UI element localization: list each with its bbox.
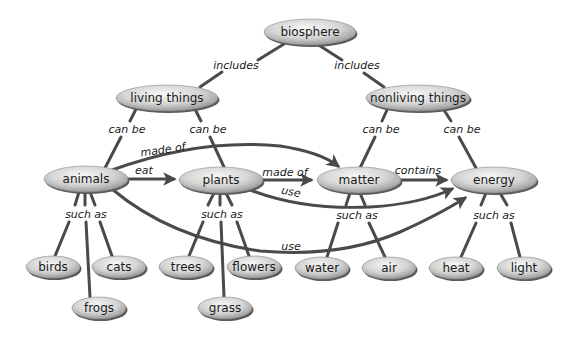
node-living-things: living things	[116, 85, 220, 113]
edge-biosphere-living-lower	[200, 72, 222, 87]
edge-energy-suchas-l	[481, 193, 486, 205]
node-matter: matter	[317, 167, 403, 195]
node-plants: plants	[179, 167, 265, 195]
node-label: cats	[107, 260, 132, 274]
label-includes-left: includes	[213, 59, 259, 72]
label-energy-suchas: such as	[473, 209, 515, 222]
label-matter-suchas: such as	[336, 209, 378, 222]
label-includes-right: includes	[334, 59, 380, 72]
node-label: light	[511, 261, 538, 275]
edge-energy-light	[511, 223, 520, 257]
edge-nonliving-matter-lower	[360, 137, 375, 168]
node-cats: cats	[92, 256, 148, 280]
node-trees: trees	[159, 256, 215, 280]
node-flowers: flowers	[227, 256, 283, 280]
edge-matter-water	[327, 223, 338, 257]
edge-living-animals-upper	[130, 109, 136, 121]
node-label: plants	[203, 173, 240, 187]
label-matter-contains: contains	[395, 164, 442, 177]
edge-living-plants-lower	[210, 137, 224, 167]
edge-matter-suchas-l	[346, 193, 350, 205]
node-label: energy	[473, 173, 515, 187]
edge-plants-suchas-l	[208, 193, 214, 205]
node-label: heat	[442, 261, 469, 275]
node-label: living things	[130, 91, 203, 105]
node-label: grass	[209, 301, 241, 315]
node-energy: energy	[451, 167, 539, 195]
node-label: matter	[339, 173, 380, 187]
node-frogs: frogs	[72, 297, 128, 321]
label-nonliving-canbe-right: can be	[443, 123, 480, 136]
edge-nonliving-energy-lower	[459, 137, 476, 168]
edge-biosphere-nonliving-lower	[364, 73, 384, 87]
edge-animals-suchas-l	[75, 192, 79, 205]
label-nonliving-canbe-left: can be	[362, 123, 399, 136]
node-water: water	[295, 257, 351, 281]
node-nonliving-things: nonliving things	[366, 85, 472, 113]
edge-plants-flowers	[237, 222, 249, 256]
label-plants-suchas: such as	[201, 208, 243, 221]
node-air: air	[362, 257, 418, 281]
edge-living-animals-lower	[105, 137, 121, 168]
node-animals: animals	[44, 166, 130, 194]
edge-plants-grass	[221, 222, 224, 297]
label-living-canbe-left: can be	[108, 123, 145, 136]
label-living-canbe-right: can be	[189, 123, 226, 136]
label-animals-use: use	[281, 240, 301, 253]
edge-nonliving-energy-upper	[444, 110, 451, 121]
node-birds: birds	[26, 256, 82, 280]
node-label: air	[381, 261, 397, 275]
node-light: light	[497, 257, 553, 281]
label-plants-madeof: made of	[262, 166, 309, 179]
node-grass: grass	[198, 297, 254, 321]
concept-map: includes includes can be can be can be c…	[0, 0, 578, 338]
node-heat: heat	[429, 257, 485, 281]
label-animals-eat: eat	[135, 164, 154, 177]
node-label: water	[305, 261, 339, 275]
node-label: biosphere	[280, 25, 339, 39]
edge-animals-birds	[55, 222, 69, 256]
node-label: flowers	[232, 260, 275, 274]
edge-animals-frogs	[86, 222, 90, 297]
node-biosphere: biosphere	[264, 19, 358, 47]
edge-biosphere-living	[258, 44, 284, 60]
label-plants-use: use	[280, 184, 302, 201]
node-label: frogs	[84, 301, 114, 315]
node-label: nonliving things	[370, 91, 466, 105]
node-label: birds	[38, 260, 68, 274]
edge-energy-heat	[461, 223, 476, 257]
edge-nonliving-matter-upper	[382, 110, 387, 121]
node-label: trees	[171, 260, 201, 274]
edge-animals-cats	[100, 222, 112, 256]
label-animals-suchas: such as	[65, 208, 107, 221]
node-label: animals	[63, 172, 110, 186]
label-animals-madeof: made of	[140, 140, 189, 159]
